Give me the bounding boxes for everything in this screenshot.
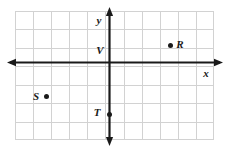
point-label-r: R bbox=[176, 39, 183, 50]
x-axis-label: x bbox=[203, 68, 209, 79]
point-marker-s bbox=[44, 94, 49, 99]
point-label-t: T bbox=[94, 107, 101, 118]
point-marker-t bbox=[107, 112, 112, 117]
origin-label-v: V bbox=[96, 45, 103, 56]
point-label-s: S bbox=[33, 91, 39, 102]
y-axis-label: y bbox=[97, 15, 102, 26]
point-marker-r bbox=[168, 43, 173, 48]
grid-bottom-edge bbox=[15, 139, 214, 140]
grid-right-edge bbox=[213, 11, 214, 140]
coordinate-plane-figure: R S T V y x bbox=[0, 0, 231, 156]
grid-background bbox=[15, 11, 214, 140]
